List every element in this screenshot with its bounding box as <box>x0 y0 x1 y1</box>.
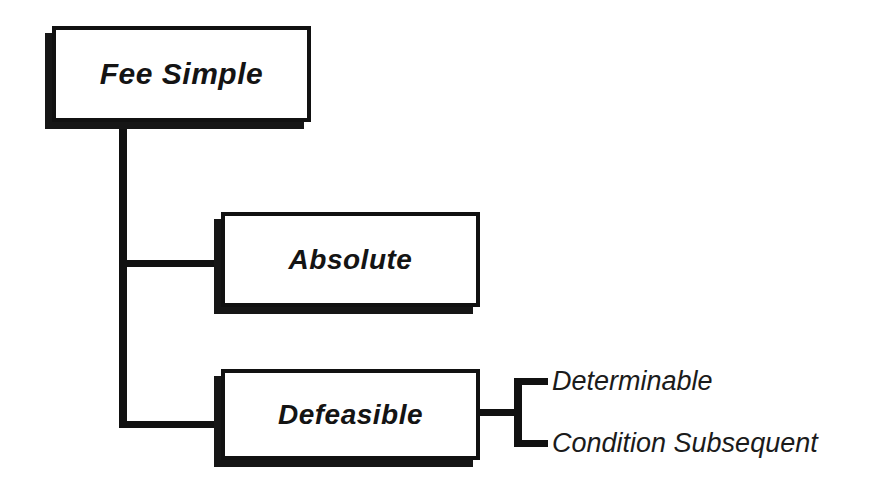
diagram-canvas: Fee Simple Absolute Defeasible Determina… <box>0 0 880 501</box>
connector-trunk-vertical <box>119 120 127 428</box>
node-fee-simple[interactable]: Fee Simple <box>52 26 311 122</box>
node-label-absolute: Absolute <box>289 244 413 276</box>
leaf-label-condition-subsequent: Condition Subsequent <box>552 428 818 459</box>
connector-subbranch-vertical <box>514 378 522 447</box>
node-label-defeasible: Defeasible <box>278 399 423 431</box>
node-absolute[interactable]: Absolute <box>221 212 480 307</box>
connector-branch-determinable <box>514 378 548 385</box>
connector-branch-condition-subsequent <box>514 440 548 447</box>
node-defeasible[interactable]: Defeasible <box>221 369 480 460</box>
node-label-fee-simple: Fee Simple <box>100 57 263 91</box>
connector-branch-absolute <box>119 260 219 267</box>
leaf-label-determinable: Determinable <box>552 366 713 397</box>
connector-branch-defeasible <box>119 421 219 428</box>
